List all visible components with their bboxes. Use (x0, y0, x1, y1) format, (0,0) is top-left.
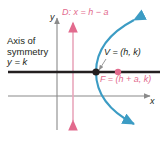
diagram-canvas (0, 0, 167, 143)
directrix-label: D: x = h − a (62, 7, 109, 17)
vertex-point (92, 68, 99, 75)
axis-of-symmetry-label: Axis of symmetry y = k (7, 36, 48, 68)
vertex-label: V = (h, k) (104, 47, 141, 57)
focus-label: F = (h + a, k) (100, 74, 151, 84)
axis-of-symmetry-equation: y = k (7, 57, 48, 68)
x-axis-label: x (150, 96, 155, 106)
parabola-diagram: Axis of symmetry y = k D: x = h − a V = … (0, 0, 167, 143)
vertex-leader-line (99, 59, 106, 70)
y-axis-label: y (50, 12, 55, 22)
